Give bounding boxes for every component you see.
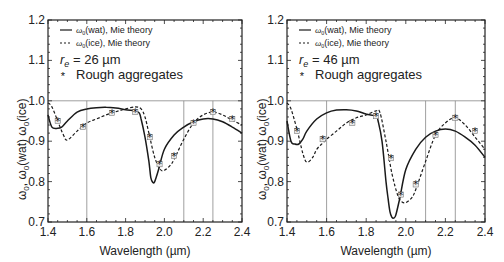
x-tick-label: 1.8: [358, 225, 375, 239]
svg-text:*: *: [320, 134, 325, 145]
svg-text:*: *: [473, 126, 478, 137]
y-tick-label: 1.1: [28, 53, 45, 67]
y-tick-label: 0.9: [267, 134, 284, 148]
x-tick-label: 2.2: [195, 225, 212, 239]
svg-text:*: *: [374, 111, 379, 122]
chart-panel-left: 1.41.61.82.02.22.40.70.80.91.01.11.2Wave…: [15, 13, 251, 258]
svg-text:*: *: [453, 113, 458, 124]
x-tick-label: 1.6: [318, 225, 335, 239]
y-tick-label: 1.2: [28, 13, 45, 27]
svg-text:*: *: [398, 190, 403, 201]
x-tick-label: 2.2: [437, 225, 454, 239]
svg-text:*: *: [294, 126, 299, 137]
legend-asterisk-icon: *: [300, 70, 305, 82]
y-tick-label: 0.7: [28, 215, 45, 229]
x-tick-label: 1.6: [78, 225, 95, 239]
y-tick-label: 0.9: [28, 134, 45, 148]
legend: ω0(wat), Mie theoryω0(ice), Mie theoryre…: [299, 25, 422, 82]
x-axis-title: Wavelength (µm): [99, 244, 190, 258]
y-tick-label: 1.0: [267, 94, 284, 108]
svg-text:*: *: [210, 107, 215, 118]
svg-text:*: *: [350, 118, 355, 129]
legend-label-ice: ω0(ice), Mie theory: [315, 38, 389, 49]
legend-label-ice: ω0(ice), Mie theory: [76, 38, 150, 49]
svg-text:*: *: [147, 132, 152, 143]
legend-label-aggregates: Rough aggregates: [76, 67, 183, 82]
y-axis-title: ω0, ω0(wat) ω0(ice): [15, 99, 31, 201]
y-axis-title: ω0, ω0(wat) ω0(ice): [255, 99, 271, 201]
svg-text:*: *: [230, 114, 235, 125]
y-tick-label: 1.2: [267, 13, 284, 27]
svg-text:*: *: [80, 122, 85, 133]
x-tick-label: 2.4: [234, 225, 251, 239]
legend: ω0(wat), Mie theoryω0(ice), Mie theoryre…: [60, 25, 183, 82]
svg-text:*: *: [55, 116, 60, 127]
y-tick-label: 0.7: [267, 215, 284, 229]
svg-text:*: *: [110, 108, 115, 119]
svg-text:*: *: [388, 153, 393, 164]
svg-text:*: *: [133, 107, 138, 118]
svg-text:*: *: [191, 118, 196, 129]
svg-text:*: *: [172, 151, 177, 162]
y-tick-label: 1.1: [267, 53, 284, 67]
x-tick-label: 2.0: [156, 225, 173, 239]
legend-label-water: ω0(wat), Mie theory: [315, 25, 392, 36]
x-axis-title: Wavelength (µm): [340, 244, 431, 258]
legend-label-aggregates: Rough aggregates: [315, 67, 422, 82]
x-tick-label: 2.0: [397, 225, 414, 239]
svg-text:*: *: [413, 179, 418, 190]
x-tick-label: 1.8: [117, 225, 134, 239]
legend-asterisk-icon: *: [61, 70, 66, 82]
svg-text:*: *: [157, 159, 162, 170]
y-tick-label: 1.0: [28, 94, 45, 108]
x-tick-label: 2.4: [477, 225, 494, 239]
svg-text:*: *: [433, 130, 438, 141]
legend-label-water: ω0(wat), Mie theory: [76, 25, 153, 36]
figure: 1.41.61.82.02.22.40.70.80.91.01.11.2Wave…: [0, 0, 504, 262]
chart-panel-right: 1.41.61.82.02.22.40.70.80.91.01.11.2Wave…: [255, 13, 494, 258]
